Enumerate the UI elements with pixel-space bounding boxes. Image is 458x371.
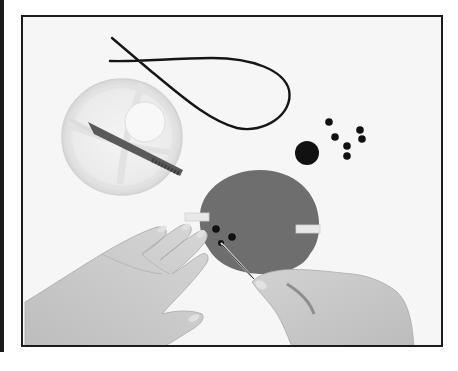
tape-strip-left [185, 213, 209, 221]
photo-frame [21, 15, 443, 347]
plastic-dish [62, 79, 182, 195]
foam-disc [200, 170, 319, 274]
left-edge-bar [0, 0, 4, 352]
craft-photo [21, 15, 443, 347]
tape-strip-right [296, 225, 320, 233]
